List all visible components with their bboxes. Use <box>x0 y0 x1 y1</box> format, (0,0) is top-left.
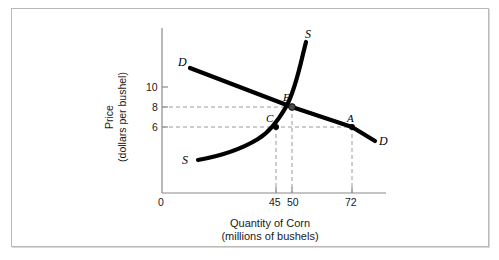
y-axis-title-line2: (dollars per bushel) <box>116 62 129 172</box>
point-label-c: C <box>266 112 273 124</box>
guide-lines <box>162 107 352 193</box>
x-axis-title-line2: (millions of bushels) <box>175 230 365 243</box>
x-tick-label-50: 50 <box>287 196 299 208</box>
x-axis-title: Quantity of Corn (millions of bushels) <box>175 217 365 243</box>
y-tick-label-6: 6 <box>152 121 158 133</box>
supply-label-top: S <box>305 27 311 42</box>
demand-label-right: D <box>379 134 388 149</box>
y-tick-label-10: 10 <box>146 81 158 93</box>
x-tick-label-45: 45 <box>269 196 281 208</box>
point-marker-e[interactable] <box>289 104 296 111</box>
y-tick-label-8: 8 <box>152 101 158 113</box>
point-label-e: E <box>283 91 290 103</box>
axis-lines <box>162 28 386 193</box>
demand-curve <box>190 68 375 141</box>
x-tick-label-0: 0 <box>158 196 164 208</box>
point-label-a: A <box>347 112 354 124</box>
y-axis-title: Price (dollars per bushel) <box>103 62 129 172</box>
x-axis-ticks <box>276 187 352 193</box>
supply-label-bottom: S <box>182 153 188 168</box>
point-marker-a[interactable] <box>349 124 355 130</box>
y-axis-title-line1: Price <box>103 62 116 172</box>
x-tick-label-72: 72 <box>345 196 357 208</box>
demand-label-left: D <box>178 55 187 70</box>
x-axis-title-line1: Quantity of Corn <box>175 217 365 230</box>
point-marker-c[interactable] <box>273 124 279 130</box>
